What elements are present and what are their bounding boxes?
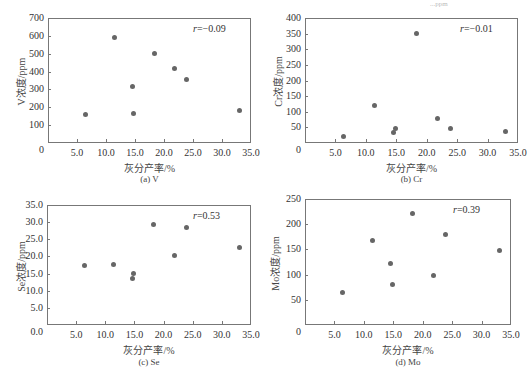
x-tick-label: 30.0 <box>207 330 237 340</box>
x-tick-label: 5.0 <box>61 330 91 340</box>
data-point <box>237 245 242 250</box>
y-tick-mark <box>47 239 50 240</box>
x-tick-mark <box>364 321 365 324</box>
x-tick-label: 5.0 <box>319 330 349 340</box>
y-tick-mark <box>47 256 50 257</box>
x-tick-label: 35.0 <box>496 330 526 340</box>
x-tick-mark <box>396 139 397 142</box>
x-tick-label: 5.0 <box>320 148 350 158</box>
x-tick-label: 15.0 <box>378 330 408 340</box>
x-tick-mark <box>222 321 223 324</box>
correlation-label: r=−0.01 <box>460 23 493 34</box>
x-tick-label: 5.0 <box>62 148 92 158</box>
y-tick-mark <box>305 81 308 82</box>
x-tick-mark <box>134 321 135 324</box>
origin-label: 0 <box>271 327 301 337</box>
x-tick-label: 15.0 <box>381 148 411 158</box>
y-tick-mark <box>305 34 308 35</box>
x-tick-mark <box>335 139 336 142</box>
y-tick-label: 600 <box>14 31 44 41</box>
data-point <box>172 66 177 71</box>
y-axis-label: Cr浓度/ppm <box>270 42 285 122</box>
y-tick-mark <box>47 222 50 223</box>
x-tick-label: 20.0 <box>149 148 179 158</box>
y-tick-label: 35.0 <box>13 200 43 210</box>
r-value: =−0.01 <box>464 23 493 34</box>
figure-caption: (a) V <box>48 174 251 184</box>
data-point <box>497 248 502 253</box>
y-tick-mark <box>305 65 308 66</box>
correlation-label: r=−0.09 <box>193 23 226 34</box>
x-tick-mark <box>423 321 424 324</box>
x-axis-label: 灰分产率/% <box>305 342 511 357</box>
y-tick-mark <box>305 249 308 250</box>
y-tick-label: 400 <box>271 13 301 23</box>
x-tick-label: 35.0 <box>236 330 266 340</box>
x-axis-label: 灰分产率/% <box>305 160 518 175</box>
x-tick-label: 10.0 <box>349 330 379 340</box>
x-tick-label: 35.0 <box>503 148 529 158</box>
x-tick-label: 25.0 <box>442 148 472 158</box>
y-tick-mark <box>305 224 308 225</box>
x-tick-mark <box>106 139 107 142</box>
data-point <box>172 253 177 258</box>
plot-area <box>47 205 251 325</box>
data-point <box>370 238 375 243</box>
x-tick-label: 15.0 <box>119 330 149 340</box>
x-tick-mark <box>482 321 483 324</box>
x-tick-mark <box>105 321 106 324</box>
figure-caption: (d) Mo <box>305 357 511 367</box>
x-tick-label: 25.0 <box>437 330 467 340</box>
r-value: =0.39 <box>457 204 480 215</box>
data-point <box>112 35 117 40</box>
x-tick-mark <box>393 321 394 324</box>
y-axis-label: V浓度/ppm <box>13 42 28 122</box>
data-point <box>431 273 436 278</box>
y-tick-mark <box>48 72 51 73</box>
x-tick-label: 20.0 <box>412 148 442 158</box>
x-tick-mark <box>366 139 367 142</box>
plot-area <box>48 18 251 143</box>
data-point <box>372 103 377 108</box>
x-tick-mark <box>76 321 77 324</box>
y-tick-label: 700 <box>14 13 44 23</box>
y-tick-mark <box>305 127 308 128</box>
y-tick-label: 50 <box>271 122 301 132</box>
y-tick-label: 350 <box>271 29 301 39</box>
x-tick-label: 30.0 <box>207 148 237 158</box>
x-tick-label: 25.0 <box>178 148 208 158</box>
y-tick-mark <box>305 112 308 113</box>
data-point <box>237 108 242 113</box>
correlation-label: r=0.39 <box>453 204 480 215</box>
x-tick-mark <box>164 321 165 324</box>
data-point <box>83 112 88 117</box>
x-tick-mark <box>193 139 194 142</box>
origin-label: 0.0 <box>13 327 43 337</box>
x-tick-label: 35.0 <box>236 148 266 158</box>
y-tick-mark <box>48 36 51 37</box>
x-tick-label: 10.0 <box>351 148 381 158</box>
x-tick-mark <box>452 321 453 324</box>
x-tick-label: 30.0 <box>473 148 503 158</box>
y-axis-label: Mo浓度/ppm <box>267 224 282 304</box>
cropped-top-text: ...ppm <box>430 0 448 8</box>
x-tick-mark <box>135 139 136 142</box>
plot-area <box>305 18 518 143</box>
x-tick-label: 15.0 <box>120 148 150 158</box>
x-tick-mark <box>193 321 194 324</box>
y-tick-mark <box>305 275 308 276</box>
x-tick-label: 10.0 <box>90 330 120 340</box>
y-tick-mark <box>47 291 50 292</box>
y-tick-mark <box>47 308 50 309</box>
y-axis-label: Se浓度/ppm <box>13 227 28 307</box>
data-point <box>443 232 448 237</box>
y-tick-mark <box>305 49 308 50</box>
data-point <box>390 282 395 287</box>
r-value: =0.53 <box>197 210 220 221</box>
x-tick-label: 20.0 <box>408 330 438 340</box>
figure-caption: (c) Se <box>47 357 251 367</box>
y-tick-mark <box>48 125 51 126</box>
origin-label: 0 <box>271 145 301 155</box>
x-tick-mark <box>488 139 489 142</box>
y-tick-mark <box>48 107 51 108</box>
